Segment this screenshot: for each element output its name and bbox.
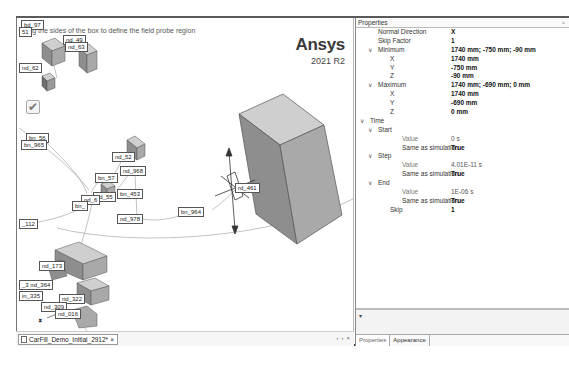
property-key: End <box>378 179 390 188</box>
close-icon[interactable]: × <box>346 335 350 341</box>
property-value[interactable]: 1740 mm; -750 mm; -90 mm <box>451 46 536 55</box>
document-tab-bar: CarFill_Demo_Initial_2912* × ‹ › × <box>16 331 354 346</box>
property-row[interactable]: Y-690 mm <box>356 99 569 108</box>
property-key: Value <box>402 188 418 197</box>
node-label[interactable]: rd_461 <box>235 183 260 193</box>
property-value[interactable]: -690 mm <box>451 99 477 108</box>
node-label[interactable]: 51 <box>19 27 32 37</box>
property-row[interactable]: Same as simulationTrue <box>356 197 569 206</box>
property-value[interactable]: 1740 mm; -690 mm; 0 mm <box>451 81 530 90</box>
property-row[interactable]: ∨Minimum1740 mm; -750 mm; -90 mm <box>356 46 569 55</box>
property-row[interactable]: Normal DirectionX <box>356 28 569 37</box>
node-label[interactable]: _3 nd_364 <box>19 280 53 290</box>
node-label[interactable]: nd_978 <box>117 214 143 224</box>
property-row[interactable]: Z0 mm <box>356 108 569 117</box>
property-key: Skip Factor <box>378 37 411 46</box>
panel-tabs: Properties Appearance <box>356 334 569 346</box>
node-label[interactable]: in_335 <box>19 291 43 301</box>
property-row[interactable]: Same as simulationTrue <box>356 170 569 179</box>
svg-text:x: x <box>39 317 42 323</box>
property-value[interactable]: True <box>451 170 465 179</box>
property-key: Value <box>402 161 418 170</box>
property-row[interactable]: Skip1 <box>356 206 569 215</box>
property-value[interactable]: 1740 mm <box>451 90 479 99</box>
property-value[interactable]: 0 mm <box>451 108 468 117</box>
property-key: Start <box>378 126 392 135</box>
tab-properties[interactable]: Properties <box>356 335 390 346</box>
document-tab-label: CarFill_Demo_Initial_2912* <box>29 335 108 345</box>
property-row[interactable]: Z-90 mm <box>356 72 569 81</box>
property-row[interactable]: Same as simulationTrue <box>356 144 569 153</box>
ansys-brand: Ansys 2021 R2 <box>295 36 345 66</box>
property-value[interactable]: 1740 mm <box>451 55 479 64</box>
property-key: Maximum <box>378 81 406 90</box>
property-row[interactable]: Value0 s <box>356 135 569 144</box>
property-value[interactable]: True <box>451 197 465 206</box>
property-value[interactable]: 1 <box>451 37 455 46</box>
property-key: X <box>390 90 394 99</box>
node-label[interactable]: bn_453 <box>117 189 143 199</box>
chevron-down-icon[interactable]: ∨ <box>368 179 372 188</box>
node-label[interactable]: _112 <box>19 219 38 229</box>
document-tab[interactable]: CarFill_Demo_Initial_2912* × <box>18 334 118 345</box>
chevron-down-icon[interactable]: ∨ <box>368 81 372 90</box>
property-key: Value <box>402 135 418 144</box>
node-label[interactable]: bn_964 <box>178 207 204 217</box>
node-label[interactable]: bn_965 <box>21 140 47 150</box>
tab-nav: ‹ › × <box>336 335 350 341</box>
node-label[interactable]: bn_ <box>72 201 88 211</box>
chevron-down-icon[interactable]: ▾ <box>359 312 362 319</box>
property-key: Z <box>390 72 394 81</box>
node-label[interactable]: bn_57 <box>95 173 118 183</box>
property-value[interactable]: -90 mm <box>451 72 474 81</box>
property-row[interactable]: Value4.01E-11 s <box>356 161 569 170</box>
chevron-down-icon[interactable]: ∨ <box>368 46 372 55</box>
chevron-left-icon[interactable]: ‹ <box>336 335 338 341</box>
property-value[interactable]: X <box>451 28 455 37</box>
property-row[interactable]: ∨Maximum1740 mm; -690 mm; 0 mm <box>356 81 569 90</box>
node-label[interactable]: nd_62 <box>19 63 42 73</box>
node-label[interactable]: nd_968 <box>120 166 146 176</box>
property-value[interactable]: 1E-06 s <box>451 188 473 197</box>
property-row[interactable]: ∨Time <box>356 117 569 126</box>
property-value[interactable]: 0 s <box>451 135 460 144</box>
property-row[interactable]: Skip Factor1 <box>356 37 569 46</box>
node-label[interactable]: nd_016 <box>55 309 81 319</box>
property-key: Step <box>378 152 391 161</box>
property-row[interactable]: ∨Step <box>356 152 569 161</box>
document-icon <box>21 336 27 343</box>
chevron-down-icon[interactable]: ∨ <box>360 117 364 126</box>
viewport-hint: Drag the sides of the box to define the … <box>21 27 195 34</box>
3d-viewport[interactable]: x Drag the sides of the box to define th… <box>16 18 354 331</box>
property-row[interactable]: ∨Start <box>356 126 569 135</box>
property-row[interactable]: X1740 mm <box>356 90 569 99</box>
brand-name: Ansys <box>295 36 345 54</box>
property-row[interactable]: Value1E-06 s <box>356 188 569 197</box>
property-value[interactable]: -750 mm <box>451 64 477 73</box>
property-row[interactable]: Y-750 mm <box>356 64 569 73</box>
chevron-down-icon[interactable]: ∨ <box>368 126 372 135</box>
properties-panel: Properties ⁎ Normal DirectionXSkip Facto… <box>355 18 569 346</box>
node-label[interactable]: nd_63 <box>65 42 88 52</box>
property-row[interactable]: X1740 mm <box>356 55 569 64</box>
node-label[interactable]: nd_52 <box>112 152 135 162</box>
check-icon[interactable]: ✔ <box>26 100 40 114</box>
chevron-down-icon[interactable]: ∨ <box>368 152 372 161</box>
property-key: Normal Direction <box>378 28 426 37</box>
property-value[interactable]: 4.01E-11 s <box>451 161 482 170</box>
chevron-right-icon[interactable]: › <box>341 335 343 341</box>
description-area: ▾ <box>356 308 569 334</box>
property-key: X <box>390 55 394 64</box>
property-key: Time <box>370 117 384 126</box>
property-row[interactable]: ∨End <box>356 179 569 188</box>
pin-icon[interactable]: ⁎ <box>562 18 565 27</box>
properties-header: Properties ⁎ <box>356 18 569 28</box>
tab-appearance[interactable]: Appearance <box>390 335 429 346</box>
document-tab-close[interactable]: × <box>110 335 114 345</box>
property-value[interactable]: True <box>451 144 465 153</box>
property-key: Skip <box>390 206 403 215</box>
node-label[interactable]: nd_173 <box>39 261 65 271</box>
properties-title: Properties <box>358 19 388 26</box>
brand-version: 2021 R2 <box>295 56 345 66</box>
property-value[interactable]: 1 <box>451 206 455 215</box>
